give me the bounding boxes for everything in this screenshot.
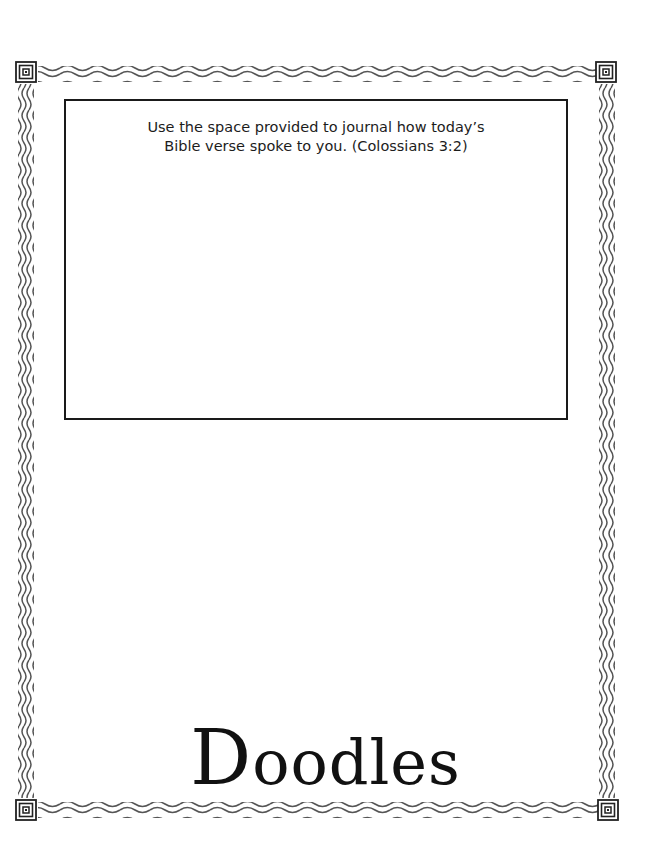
top-wavy-border <box>38 66 596 82</box>
journal-prompt-line-1: Use the space provided to journal how to… <box>66 118 566 137</box>
journal-writing-box[interactable]: Use the space provided to journal how to… <box>64 99 568 420</box>
journal-prompt-line-2: Bible verse spoke to you. (Colossians 3:… <box>66 137 566 156</box>
doodle-drawing-area[interactable] <box>40 430 590 720</box>
doodles-heading: Doodles <box>0 722 651 799</box>
doodles-heading-initial: D <box>190 713 252 802</box>
square-spiral-icon <box>16 800 36 820</box>
left-wavy-border <box>18 84 34 798</box>
doodles-heading-rest: oodles <box>252 726 461 799</box>
bottom-wavy-border <box>38 802 598 818</box>
square-spiral-icon <box>16 62 36 82</box>
right-wavy-border <box>599 84 615 798</box>
square-spiral-icon <box>596 62 616 82</box>
worksheet-page: Use the space provided to journal how to… <box>0 0 651 852</box>
journal-prompt: Use the space provided to journal how to… <box>66 118 566 156</box>
square-spiral-icon <box>598 800 618 820</box>
